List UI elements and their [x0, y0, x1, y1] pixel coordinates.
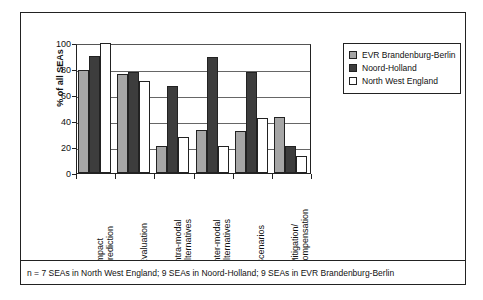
- bar-group: [155, 45, 194, 173]
- bar: [156, 146, 167, 173]
- bar: [235, 131, 246, 173]
- bar: [257, 118, 268, 173]
- x-tick-mark: [311, 174, 312, 179]
- bar-group: [77, 45, 116, 173]
- y-tick-label: 20: [61, 144, 71, 153]
- bar: [89, 56, 100, 173]
- bar: [296, 156, 307, 173]
- footnote-box: n = 7 SEAs in North West England; 9 SEAs…: [20, 260, 466, 285]
- x-axis-labels: ImpactpredictionEvaluationIntra-modalalt…: [76, 181, 316, 271]
- y-tick-mark: [72, 174, 76, 175]
- bar: [139, 81, 150, 173]
- chart-legend: EVR Brandenburg-BerlinNoord-HollandNorth…: [343, 43, 461, 94]
- y-tick-label: 60: [61, 92, 71, 101]
- x-tick-mark: [154, 174, 155, 179]
- legend-item[interactable]: EVR Brandenburg-Berlin: [349, 50, 456, 60]
- y-tick-mark: [72, 44, 76, 45]
- bar: [246, 72, 257, 173]
- y-tick-label: 40: [61, 118, 71, 127]
- legend-swatch-icon: [349, 51, 357, 59]
- x-axis-category-label: Inter-modal: [212, 219, 222, 265]
- x-axis-category-label: Evaluation: [139, 223, 149, 265]
- legend-item[interactable]: North West England: [349, 76, 456, 86]
- x-axis-category-label: Intra-modal: [173, 219, 183, 265]
- x-tick-mark: [76, 174, 77, 179]
- footnote-text: n = 7 SEAs in North West England; 9 SEAs…: [27, 268, 394, 278]
- bar: [167, 86, 178, 173]
- y-tick-label: 80: [61, 66, 71, 75]
- x-axis-category-label: Mitigation/: [290, 224, 300, 265]
- bar: [78, 70, 89, 173]
- legend-item-label: EVR Brandenburg-Berlin: [362, 50, 456, 60]
- bar-group: [195, 45, 234, 173]
- bar: [178, 137, 189, 173]
- bar: [100, 43, 111, 173]
- y-tick-label: 0: [66, 170, 71, 179]
- bar: [196, 130, 207, 173]
- x-tick-mark: [194, 174, 195, 179]
- x-tick-mark: [233, 174, 234, 179]
- legend-swatch-icon: [349, 64, 357, 72]
- y-tick-mark: [72, 122, 76, 123]
- x-axis-category-label: compensation: [300, 209, 310, 265]
- bar: [274, 117, 285, 173]
- y-tick-mark: [72, 70, 76, 71]
- x-axis-category-label: alternatives: [222, 219, 232, 265]
- y-axis-tick-labels: 020406080100: [43, 44, 71, 174]
- figure-frame: % of all SEAs 020406080100 Impactpredict…: [20, 12, 466, 285]
- legend-item[interactable]: Noord-Holland: [349, 63, 456, 73]
- bar-group: [234, 45, 273, 173]
- x-axis-ticks: [76, 174, 313, 180]
- x-tick-mark: [272, 174, 273, 179]
- y-tick-mark: [72, 96, 76, 97]
- bar: [218, 146, 229, 173]
- bar: [128, 72, 139, 173]
- legend-item-label: Noord-Holland: [362, 63, 417, 73]
- bar: [207, 57, 218, 173]
- x-axis-category-label: Scenarios: [256, 225, 266, 265]
- bar-group: [273, 45, 312, 173]
- legend-swatch-icon: [349, 77, 357, 85]
- bar: [117, 74, 128, 173]
- bar: [285, 146, 296, 173]
- y-tick-label: 100: [56, 40, 71, 49]
- x-tick-mark: [115, 174, 116, 179]
- legend-item-label: North West England: [362, 76, 438, 86]
- y-tick-mark: [72, 148, 76, 149]
- plot-area: [76, 44, 311, 174]
- bar-group: [116, 45, 155, 173]
- x-axis-category-label: alternatives: [183, 219, 193, 265]
